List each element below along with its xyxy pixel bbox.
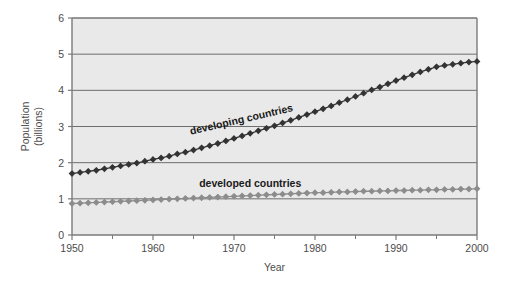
y-axis-title: Population(billions) bbox=[19, 102, 44, 152]
x-tick-label-1970: 1970 bbox=[222, 242, 246, 254]
y-tick-label-0: 0 bbox=[58, 229, 64, 241]
x-tick-label-1950: 1950 bbox=[60, 242, 84, 254]
x-tick-label-1980: 1980 bbox=[303, 242, 327, 254]
y-tick-label-5: 5 bbox=[58, 48, 64, 60]
x-axis-title: Year bbox=[264, 261, 286, 273]
x-tick-label-1960: 1960 bbox=[141, 242, 165, 254]
y-tick-label-2: 2 bbox=[58, 157, 64, 169]
y-tick-label-1: 1 bbox=[58, 193, 64, 205]
y-axis-title-line2: (billions) bbox=[32, 107, 44, 146]
chart-canvas: 195019601970198019902000 0123456 develop… bbox=[0, 0, 512, 282]
y-tick-label-4: 4 bbox=[58, 84, 64, 96]
annotation-developed-countries: developed countries bbox=[199, 177, 301, 189]
population-line-chart: 195019601970198019902000 0123456 develop… bbox=[0, 0, 512, 282]
y-axis-title-line1: Population bbox=[19, 102, 31, 152]
x-tick-label-2000: 2000 bbox=[465, 242, 489, 254]
x-tick-label-1990: 1990 bbox=[384, 242, 408, 254]
y-tick-label-3: 3 bbox=[58, 121, 64, 133]
y-tick-label-6: 6 bbox=[58, 12, 64, 24]
